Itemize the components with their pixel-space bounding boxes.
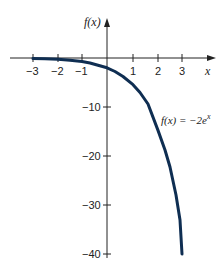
x-axis-arrow-icon xyxy=(207,55,216,61)
y-axis-label: f(x) xyxy=(84,15,101,29)
x-axis-label: x xyxy=(204,64,211,78)
x-tick-label: 1 xyxy=(130,65,136,77)
function-label-exponent: x xyxy=(206,112,211,121)
x-tick-label: −2 xyxy=(51,65,64,77)
y-tick-label: −40 xyxy=(82,248,101,260)
x-tick-label: −1 xyxy=(75,65,88,77)
x-tick-label: 3 xyxy=(179,65,185,77)
y-tick-label: −20 xyxy=(82,150,101,162)
function-label-main: f(x) = −2e xyxy=(161,114,207,127)
x-tick-label: −3 xyxy=(26,65,39,77)
chart: −3 −2 −1 1 2 3 x −10 −20 −30 −40 f(x) f(… xyxy=(0,0,223,270)
x-tick-label: 2 xyxy=(155,65,161,77)
y-tick-label: −30 xyxy=(82,199,101,211)
y-axis-arrow-icon xyxy=(104,18,110,27)
function-label: f(x) = −2ex xyxy=(161,112,211,127)
y-tick-label: −10 xyxy=(82,101,101,113)
